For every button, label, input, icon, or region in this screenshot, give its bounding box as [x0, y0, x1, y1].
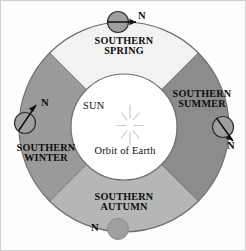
label-southern-autumn-line1: SOUTHERN [95, 191, 154, 202]
label-orbit-of-earth: Orbit of Earth [77, 146, 173, 157]
label-southern-spring: SOUTHERN SPRING [64, 36, 184, 57]
label-north-right: N [223, 141, 239, 152]
label-southern-spring-line2: SPRING [64, 46, 184, 56]
label-southern-autumn-line2: AUTUMN [64, 202, 184, 212]
label-north-top: N [133, 11, 151, 22]
earth-bottom [108, 219, 129, 240]
label-southern-summer: SOUTHERN SUMMER [156, 89, 246, 110]
label-sun: SUN [83, 101, 127, 112]
label-north-left: N [37, 98, 53, 109]
earth-sphere-bottom [108, 219, 129, 240]
earth-sphere-left [15, 113, 36, 134]
label-southern-summer-line2: SUMMER [156, 99, 246, 109]
label-southern-winter-line1: SOUTHERN [17, 142, 76, 153]
label-north-bottom: N [87, 223, 103, 234]
label-southern-autumn: SOUTHERN AUTUMN [64, 192, 184, 213]
label-southern-spring-line1: SOUTHERN [95, 35, 154, 46]
label-southern-summer-line1: SOUTHERN [173, 88, 232, 99]
figure-frame: SOUTHERN SPRING SOUTHERN SUMMER SOUTHERN… [0, 0, 246, 251]
